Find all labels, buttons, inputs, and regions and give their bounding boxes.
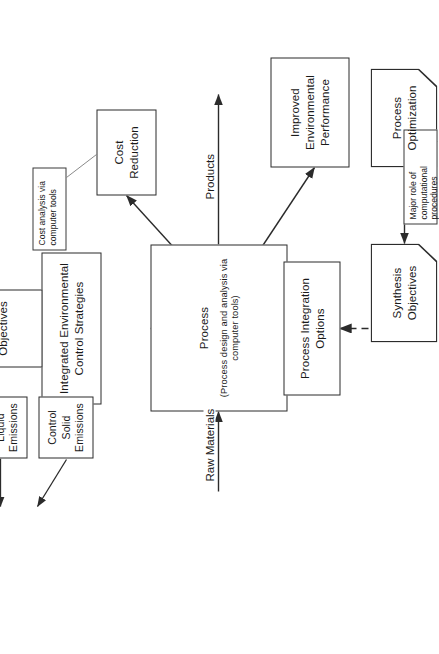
label-products-text: Products [203, 154, 215, 199]
node-improved-performance[interactable]: Improved Environmental Performance [270, 57, 349, 167]
node-control-liquid-emissions-label: Control Liquid Emissions [0, 400, 20, 454]
node-synthesis-objectives[interactable]: Synthesis Objectives [370, 243, 437, 342]
node-process-integration-options-label: Process Integration Options [297, 265, 327, 391]
label-raw-materials: Raw Materials [203, 405, 215, 484]
callout-cost-analysis-text: Cost analysis via computer tools [36, 181, 57, 245]
node-environmental-objectives[interactable]: Environmental Objectives [0, 289, 42, 367]
label-raw-materials-text: Raw Materials [203, 408, 215, 481]
connector-process-to-cost-reduction [126, 195, 176, 250]
callout-major-role-text: Major role of computational procedures [407, 165, 438, 219]
connector-solid-to-objectives [37, 459, 66, 506]
node-process-optimization-label: Process Optimization [389, 68, 419, 167]
node-process-subtitle: (Process design and analysis via compute… [218, 248, 241, 407]
node-process-integration-options[interactable]: Process Integration Options [283, 261, 340, 395]
connector-process-to-improved-performance [259, 167, 314, 250]
node-cost-reduction[interactable]: Cost Reduction [96, 109, 156, 195]
node-integrated-strategies-label: Integrated Environmental Control Strateg… [56, 256, 86, 400]
leader-cost-analysis [66, 154, 96, 177]
node-process[interactable]: Process (Process design and analysis via… [150, 244, 287, 411]
callout-cost-analysis[interactable]: Cost analysis via computer tools [32, 167, 66, 250]
node-synthesis-objectives-label: Synthesis Objectives [389, 243, 419, 342]
label-products: Products [203, 151, 215, 202]
node-environmental-objectives-label: Environmental Objectives [0, 291, 10, 366]
node-improved-performance-label: Improved Environmental Performance [287, 61, 332, 163]
node-cost-reduction-label: Cost Reduction [111, 113, 141, 191]
node-process-title: Process [196, 248, 211, 407]
node-control-liquid-emissions[interactable]: Control Liquid Emissions [0, 396, 27, 458]
node-control-solid-emissions-label: Control Solid Emissions [45, 400, 86, 454]
node-control-solid-emissions[interactable]: Control Solid Emissions [38, 396, 93, 458]
node-integrated-strategies[interactable]: Integrated Environmental Control Strateg… [41, 252, 101, 404]
